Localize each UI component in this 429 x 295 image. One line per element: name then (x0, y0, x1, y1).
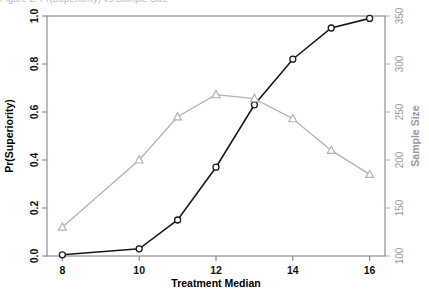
x-axis-tick-label: 14 (287, 264, 299, 276)
chart-canvas: 0.00.20.40.60.81.01001502002503003508101… (0, 0, 429, 295)
series-line-1 (62, 18, 369, 254)
x-axis-tick-label: 16 (364, 264, 376, 276)
clipped-figure-caption: Figure 2. Pr(Superiority) vs Sample Size (0, 0, 429, 4)
y-axis-title-text: Pr(Superiority) (3, 99, 15, 173)
y-axis-tick-label: 0.6 (28, 105, 40, 120)
series-line-2 (62, 95, 369, 227)
y2-axis-tick-label: 100 (394, 247, 405, 264)
data-point-triangle (212, 91, 220, 98)
y-axis-tick-label: 0.4 (28, 153, 40, 168)
data-point-circle (136, 246, 142, 252)
data-point-circle (290, 56, 296, 62)
data-point-circle (328, 25, 334, 31)
y-axis-tick-label: 0.2 (28, 201, 40, 216)
x-axis-tick-label: 8 (59, 264, 65, 276)
plot-frame (47, 16, 385, 256)
y2-axis-tick-label: 200 (394, 151, 405, 168)
y2-axis-title-text: Sample Size (409, 105, 421, 166)
data-point-circle (251, 102, 257, 108)
y2-axis-tick-label: 350 (394, 7, 405, 24)
data-point-triangle (327, 146, 335, 153)
y-axis-tick-label: 0.0 (28, 249, 40, 264)
data-point-triangle (366, 170, 374, 177)
y2-axis-tick-label: 150 (394, 199, 405, 216)
data-point-circle (367, 15, 373, 21)
y-axis-tick-label: 0.8 (28, 57, 40, 72)
y2-axis-tick-label: 300 (394, 55, 405, 72)
y-axis-tick-label: 1.0 (28, 9, 40, 24)
x-axis-title-text: Treatment Median (171, 277, 260, 289)
chart-figure: Figure 2. Pr(Superiority) vs Sample Size… (0, 0, 429, 295)
data-point-triangle (289, 115, 297, 122)
y2-axis-tick-label: 250 (394, 103, 405, 120)
x-axis-tick-label: 12 (210, 264, 222, 276)
x-axis-tick-label: 10 (133, 264, 145, 276)
data-point-circle (175, 217, 181, 223)
data-point-circle (213, 164, 219, 170)
data-point-triangle (174, 113, 182, 120)
data-point-circle (59, 252, 65, 258)
